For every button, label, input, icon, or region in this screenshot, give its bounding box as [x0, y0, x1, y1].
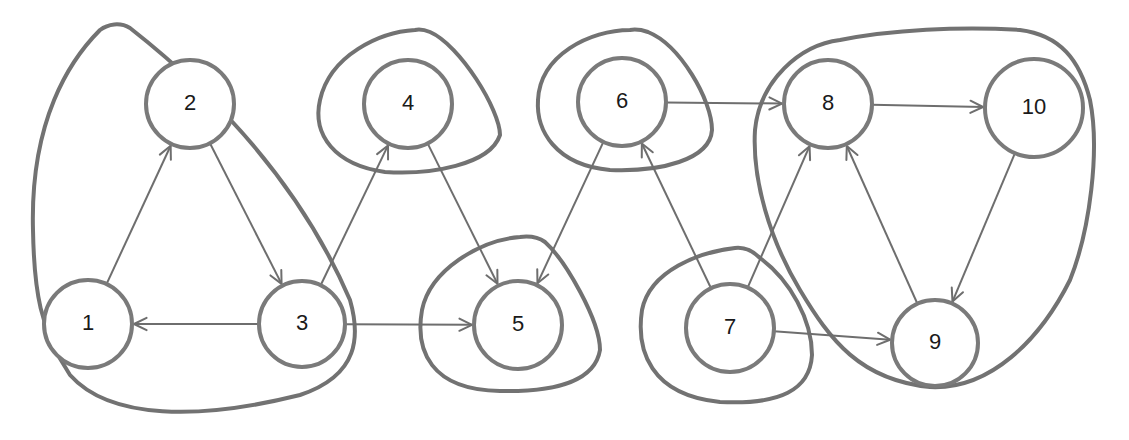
node-label: 6 [616, 88, 628, 113]
nodes-layer: 12345678910 [44, 58, 1083, 386]
edge-1-to-2 [107, 146, 171, 284]
edge-3-to-4 [321, 145, 388, 285]
node-label: 3 [296, 310, 308, 335]
graph-node-3: 3 [259, 281, 345, 367]
edge-3-to-1 [134, 318, 259, 330]
edge-10-to-9 [952, 153, 1015, 301]
graph-node-2: 2 [146, 60, 234, 148]
node-label: 4 [402, 90, 414, 115]
edge-6-to-5 [537, 142, 603, 283]
directed-graph-diagram: 12345678910 [0, 0, 1129, 440]
edge-line [321, 145, 388, 285]
graph-node-7: 7 [686, 284, 774, 372]
graph-node-10: 10 [985, 59, 1083, 157]
edge-8-to-10 [872, 101, 983, 113]
node-label: 5 [512, 311, 524, 336]
node-label: 8 [822, 90, 834, 115]
graph-node-1: 1 [44, 280, 132, 368]
node-label: 1 [82, 310, 94, 335]
graph-node-6: 6 [578, 58, 666, 146]
node-label: 9 [929, 329, 941, 354]
edge-3-to-5 [345, 319, 472, 331]
node-label: 7 [724, 314, 736, 339]
node-label: 10 [1022, 94, 1046, 119]
edge-line [345, 324, 472, 325]
edge-line [847, 146, 918, 304]
edge-line [666, 102, 782, 103]
graph-node-5: 5 [474, 281, 562, 369]
edge-line [872, 105, 983, 107]
edge-line [952, 153, 1015, 301]
edge-line [537, 142, 603, 283]
edge-9-to-8 [846, 146, 917, 304]
graph-node-9: 9 [892, 300, 978, 386]
graph-node-8: 8 [784, 60, 872, 148]
edge-line [107, 146, 171, 284]
node-label: 2 [184, 90, 196, 115]
graph-node-4: 4 [364, 60, 452, 148]
